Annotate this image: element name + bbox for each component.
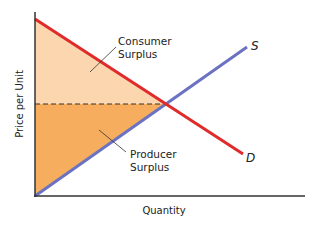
consumer-surplus-label-line1: Consumer [118, 35, 172, 47]
x-axis-label: Quantity [142, 205, 185, 216]
consumer-surplus-label-line2: Surplus [118, 48, 157, 60]
y-axis-label: Price per Unit [14, 70, 25, 138]
producer-surplus-label-line2: Surplus [130, 161, 169, 173]
supply-label: S [251, 39, 259, 53]
producer-surplus-label-line1: Producer [130, 148, 177, 160]
demand-label: D [246, 151, 255, 165]
surplus-diagram: S D Consumer Surplus Producer Surplus Qu… [0, 0, 319, 225]
